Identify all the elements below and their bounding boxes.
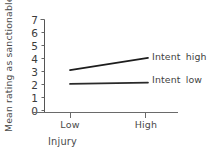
series-label-intent-high: Intenthigh — [152, 51, 207, 62]
line-chart: Mean rating as sanctionable 7 6 5 4 3 2 … — [0, 0, 209, 154]
x-tick-label-high: High — [135, 119, 158, 130]
series-line-intent-high — [70, 58, 148, 70]
x-axis-title: Injury — [0, 136, 167, 147]
series-name: Intent — [152, 74, 181, 85]
series-name: Intent — [152, 51, 181, 62]
series-line-intent-low — [70, 83, 148, 84]
x-tick-label-low: Low — [60, 119, 79, 130]
series-level: low — [186, 74, 202, 85]
series-label-intent-low: Intentlow — [152, 74, 202, 85]
series-level: high — [186, 51, 207, 62]
